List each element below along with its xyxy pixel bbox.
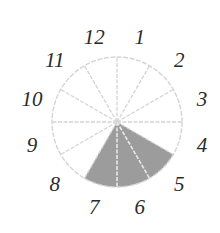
shaded-wedge bbox=[85, 122, 174, 187]
label-12: 12 bbox=[84, 25, 106, 49]
label-7: 7 bbox=[89, 195, 101, 219]
label-8: 8 bbox=[50, 172, 61, 196]
label-3: 3 bbox=[196, 87, 208, 111]
label-1: 1 bbox=[135, 25, 146, 49]
sector-divider-line bbox=[117, 66, 150, 122]
clock-sector-diagram: 12 1 2 3 4 5 6 7 8 9 10 11 bbox=[0, 0, 220, 233]
sector-divider-line bbox=[61, 90, 117, 123]
label-5: 5 bbox=[174, 172, 185, 196]
label-11: 11 bbox=[45, 48, 64, 72]
sector-divider-line bbox=[85, 66, 118, 122]
label-10: 10 bbox=[21, 87, 43, 111]
label-4: 4 bbox=[197, 133, 208, 157]
sector-divider-line bbox=[117, 90, 173, 123]
label-9: 9 bbox=[27, 133, 38, 157]
shaded-sector bbox=[85, 122, 174, 187]
label-2: 2 bbox=[174, 48, 185, 72]
label-6: 6 bbox=[135, 195, 146, 219]
